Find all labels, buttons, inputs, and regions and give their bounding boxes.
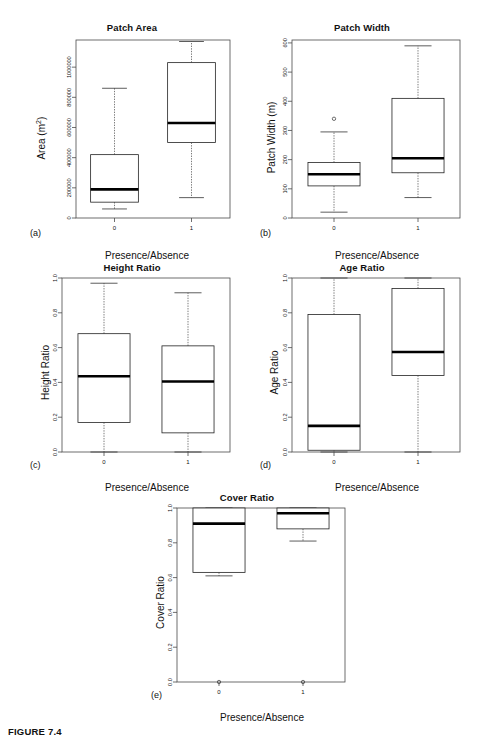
x-tick-label: 1 xyxy=(186,459,190,465)
box xyxy=(392,288,444,375)
y-tick-label: 0.4 xyxy=(167,609,173,617)
x-tick-label: 1 xyxy=(416,225,420,231)
panel-tag-c: (c) xyxy=(30,460,41,470)
y-tick-label: 0.6 xyxy=(52,344,58,352)
y-tick-label: 400000 xyxy=(66,148,72,167)
box xyxy=(277,508,329,529)
y-tick-label: 0.4 xyxy=(282,379,288,387)
x-axis-title-a: Presence/Absence xyxy=(58,250,236,261)
figure-7-4: Patch Area Area (m2) 0200000400000600000… xyxy=(0,0,494,748)
y-tick-label: 0 xyxy=(282,216,288,219)
boxplot-a: 0200000400000600000800000100000001 xyxy=(28,22,236,272)
y-tick-label: 0.8 xyxy=(167,539,173,547)
y-tick-label: 0.8 xyxy=(52,309,58,317)
boxplot-e: 0.00.20.40.60.81.001 xyxy=(143,492,351,732)
box xyxy=(78,334,130,423)
y-tick-label: 1.0 xyxy=(167,504,173,512)
y-tick-label: 800000 xyxy=(66,88,72,107)
y-tick-label: 1.0 xyxy=(52,274,58,282)
panel-tag-a: (a) xyxy=(30,228,41,238)
boxplot-d: 0.00.20.40.60.81.001 xyxy=(258,262,466,502)
x-tick-label: 1 xyxy=(301,689,305,695)
x-tick-label: 0 xyxy=(332,225,336,231)
boxplot-b: 010020030040050060001 xyxy=(258,22,466,272)
x-axis-title-e: Presence/Absence xyxy=(173,712,351,723)
x-tick-label: 0 xyxy=(217,689,221,695)
y-tick-label: 0 xyxy=(66,216,72,219)
box xyxy=(193,508,245,572)
box xyxy=(91,155,139,203)
y-tick-label: 1.0 xyxy=(282,274,288,282)
y-tick-label: 200000 xyxy=(66,178,72,197)
boxplot-c: 0.00.20.40.60.81.001 xyxy=(28,262,236,502)
y-tick-label: 300 xyxy=(282,126,288,135)
y-tick-label: 0.4 xyxy=(52,379,58,387)
panel-tag-d: (d) xyxy=(260,460,271,470)
y-tick-label: 200 xyxy=(282,155,288,164)
panel-patch-area: Patch Area Area (m2) 0200000400000600000… xyxy=(28,22,236,272)
y-tick-label: 100 xyxy=(282,184,288,193)
outlier-point xyxy=(332,117,335,120)
x-axis-title-b: Presence/Absence xyxy=(288,250,466,261)
y-tick-label: 0.2 xyxy=(282,413,288,421)
figure-caption: FIGURE 7.4 xyxy=(8,726,62,737)
panel-tag-b: (b) xyxy=(260,228,271,238)
x-tick-label: 0 xyxy=(113,225,117,231)
panel-patch-width: Patch Width Patch Width (m) 010020030040… xyxy=(258,22,466,272)
box xyxy=(168,63,216,143)
y-tick-label: 0.8 xyxy=(282,309,288,317)
y-tick-label: 500 xyxy=(282,67,288,76)
y-tick-label: 0.0 xyxy=(52,448,58,456)
y-tick-label: 0.0 xyxy=(167,678,173,686)
y-tick-label: 1000000 xyxy=(66,56,72,78)
y-tick-label: 0.2 xyxy=(167,643,173,651)
x-tick-label: 0 xyxy=(332,459,336,465)
y-tick-label: 600 xyxy=(282,38,288,47)
y-tick-label: 0.6 xyxy=(167,574,173,582)
panel-height-ratio: Height Ratio Height Ratio 0.00.20.40.60.… xyxy=(28,262,236,502)
y-tick-label: 0.2 xyxy=(52,413,58,421)
y-tick-label: 0.6 xyxy=(282,344,288,352)
panel-age-ratio: Age Ratio Age Ratio 0.00.20.40.60.81.001… xyxy=(258,262,466,502)
x-tick-label: 1 xyxy=(416,459,420,465)
y-tick-label: 400 xyxy=(282,97,288,106)
y-tick-label: 600000 xyxy=(66,118,72,137)
panel-cover-ratio: Cover Ratio Cover Ratio 0.00.20.40.60.81… xyxy=(143,492,351,732)
box xyxy=(392,98,444,172)
y-tick-label: 0.0 xyxy=(282,448,288,456)
box xyxy=(162,346,214,433)
x-tick-label: 0 xyxy=(102,459,106,465)
box xyxy=(308,315,360,451)
x-tick-label: 1 xyxy=(190,225,194,231)
panel-tag-e: (e) xyxy=(151,690,162,700)
